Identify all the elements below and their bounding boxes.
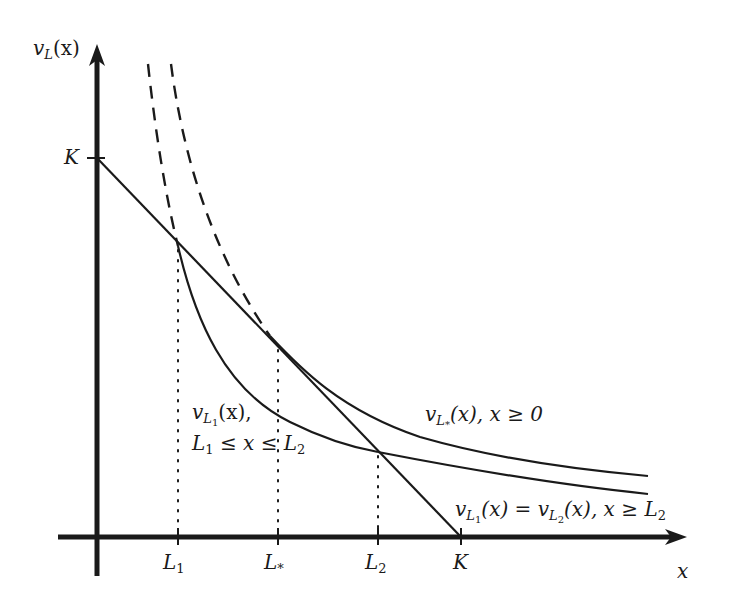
annot-end: L (644, 497, 657, 521)
label-sub: 2 (378, 561, 386, 576)
annot-b: L (284, 431, 297, 455)
annot-a: L (192, 431, 205, 455)
annot-mid: (x) = (481, 497, 537, 521)
annot-rest: (x), (218, 400, 251, 424)
annot-asub: 1 (205, 442, 213, 457)
x-tick-label-Lstar: L* (264, 552, 284, 575)
label-sub: 1 (176, 561, 184, 576)
annot-sub1: L (466, 508, 475, 523)
diagram-canvas: vL(x) K L1 L* L2 K x vL1(x), L1 ≤ x ≤ L2… (0, 0, 743, 611)
annotation-vL1-equals-vL2: vL1(x) = vL2(x), x ≥ L2 (455, 499, 666, 525)
x-tick-label-L1: L1 (163, 552, 185, 575)
label-L: L (163, 550, 176, 574)
annotation-vLstar: vL*(x), x ≥ 0 (425, 404, 543, 430)
dotted-guides (178, 250, 378, 530)
annot-rest: (x), x ≥ (564, 497, 644, 521)
y-axis-label-sub: L (44, 47, 53, 62)
annot-sub: L (436, 413, 445, 428)
y-axis (87, 44, 105, 576)
label-L: L (365, 550, 378, 574)
annot-mid: ≤ x ≤ (214, 431, 284, 455)
annot-rest: (x), x ≥ 0 (450, 402, 543, 426)
dashed-extension-vL1 (148, 64, 178, 246)
annot-endsub: 2 (658, 508, 666, 523)
annot-sub2: L (549, 508, 558, 523)
x-tick-label-K: K (453, 552, 468, 572)
annotation-vL1-line2: L1 ≤ x ≤ L2 (192, 433, 305, 456)
label-sub: * (277, 561, 284, 576)
annot-v1: v (455, 497, 466, 521)
annotation-vL1-line1: vL1(x), (192, 402, 252, 428)
x-tick-label-L2: L2 (365, 552, 387, 575)
y-axis-label-arg: (x) (53, 36, 80, 60)
annot-bsub: 2 (297, 442, 305, 457)
x-axis-label: x (677, 561, 688, 581)
y-axis-label-v: v (33, 36, 44, 60)
annot-v: v (425, 402, 436, 426)
x-axis (58, 528, 687, 545)
label-L: L (264, 550, 277, 574)
y-tick-label-K: K (64, 147, 79, 167)
y-axis-label: vL(x) (33, 38, 80, 61)
annot-v: v (192, 400, 203, 424)
dashed-extension-vLstar (171, 64, 270, 336)
annot-v2: v (538, 497, 549, 521)
annot-sub: L (203, 411, 212, 426)
